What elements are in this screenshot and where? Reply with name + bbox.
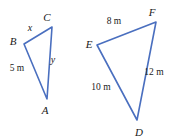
triangle-abc-outline (24, 27, 52, 99)
vertex-label-d: D (135, 127, 143, 138)
side-label-ef-measure: 8 m (107, 17, 122, 27)
side-label-ed-measure: 10 m (91, 83, 110, 93)
vertex-label-e: E (86, 39, 93, 50)
side-label-x: x (28, 23, 32, 33)
side-label-ba-measure: 5 m (10, 64, 25, 74)
geometry-figure: B C A x y 5 m E F D 8 m 12 m 10 m (0, 0, 178, 140)
side-label-fd-measure: 12 m (144, 68, 163, 78)
vertex-label-f: F (149, 7, 156, 18)
side-label-y: y (51, 55, 55, 65)
vertex-label-b: B (10, 36, 17, 47)
vertex-label-a: A (42, 105, 49, 116)
vertex-label-c: C (43, 12, 50, 23)
